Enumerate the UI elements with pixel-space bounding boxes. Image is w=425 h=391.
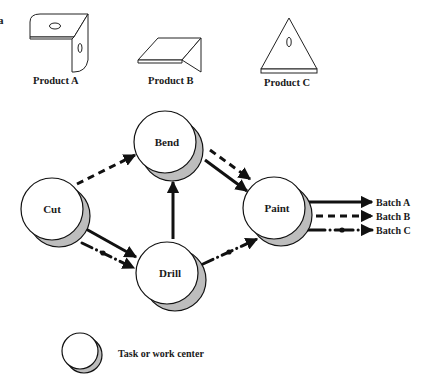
flow-cut-drill-dashdot [82, 243, 134, 268]
node-drill-label: Drill [159, 267, 181, 279]
product-c-icon [261, 18, 317, 73]
flow-cut-drill-solid [86, 229, 136, 257]
node-cut: Cut [21, 178, 90, 247]
flow-cut-bend-dashed [77, 155, 135, 184]
node-paint: Paint [243, 177, 312, 246]
product-a-label: Product A [33, 75, 79, 86]
process-flow-diagram: a Product A Product B Product C [0, 0, 425, 391]
legend-node-icon [62, 333, 102, 373]
product-a-icon [30, 14, 88, 72]
output-label-batch-b: Batch B [376, 211, 411, 222]
flow-bend-paint-dashed [210, 150, 250, 179]
node-drill: Drill [136, 242, 206, 311]
product-b-label: Product B [148, 75, 194, 86]
product-b-icon [138, 38, 201, 72]
node-paint-label: Paint [264, 202, 289, 214]
flow-bend-paint-solid [205, 160, 247, 191]
node-cut-label: Cut [43, 203, 61, 215]
legend-label: Task or work center [118, 348, 204, 359]
node-bend-label: Bend [155, 136, 179, 148]
clipped-text-fragment: a [0, 14, 4, 26]
output-label-batch-c: Batch C [376, 225, 411, 236]
node-bend: Bend [134, 111, 203, 181]
product-c-label: Product C [264, 77, 310, 88]
output-label-batch-a: Batch A [376, 197, 411, 208]
